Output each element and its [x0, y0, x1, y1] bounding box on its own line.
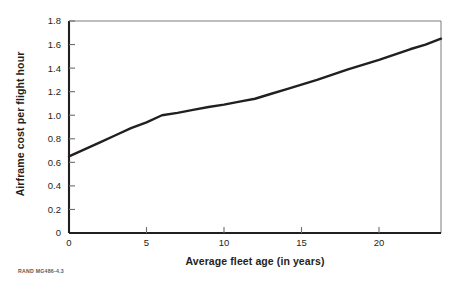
line-chart-plot: 00.20.40.60.81.01.21.41.61.805101520	[0, 0, 463, 289]
figure-container: Airframe cost per flight hour 00.20.40.6…	[0, 0, 463, 289]
y-axis-tick-label: 0.4	[48, 180, 61, 191]
x-axis-tick-label: 5	[144, 237, 149, 248]
y-axis-tick-label: 1.0	[48, 110, 61, 121]
y-axis-tick-label: 1.6	[48, 39, 61, 50]
y-axis-tick-label: 1.2	[48, 86, 61, 97]
y-axis-tick-label: 1.8	[48, 15, 61, 26]
y-axis-tick-label: 1.4	[48, 63, 61, 74]
source-note: RAND MG486-4.3	[18, 268, 64, 274]
y-axis-tick-label: 0.2	[48, 204, 61, 215]
y-axis-tick-label: 0.6	[48, 157, 61, 168]
x-axis-title: Average fleet age (in years)	[69, 255, 441, 267]
x-axis-tick-label: 10	[219, 237, 230, 248]
data-line-series	[69, 39, 441, 157]
y-axis-tick-label: 0	[56, 227, 61, 238]
x-axis-tick-label: 15	[296, 237, 307, 248]
x-axis-tick-label: 20	[374, 237, 385, 248]
x-axis-tick-label: 0	[66, 237, 71, 248]
y-axis-tick-label: 0.8	[48, 133, 61, 144]
